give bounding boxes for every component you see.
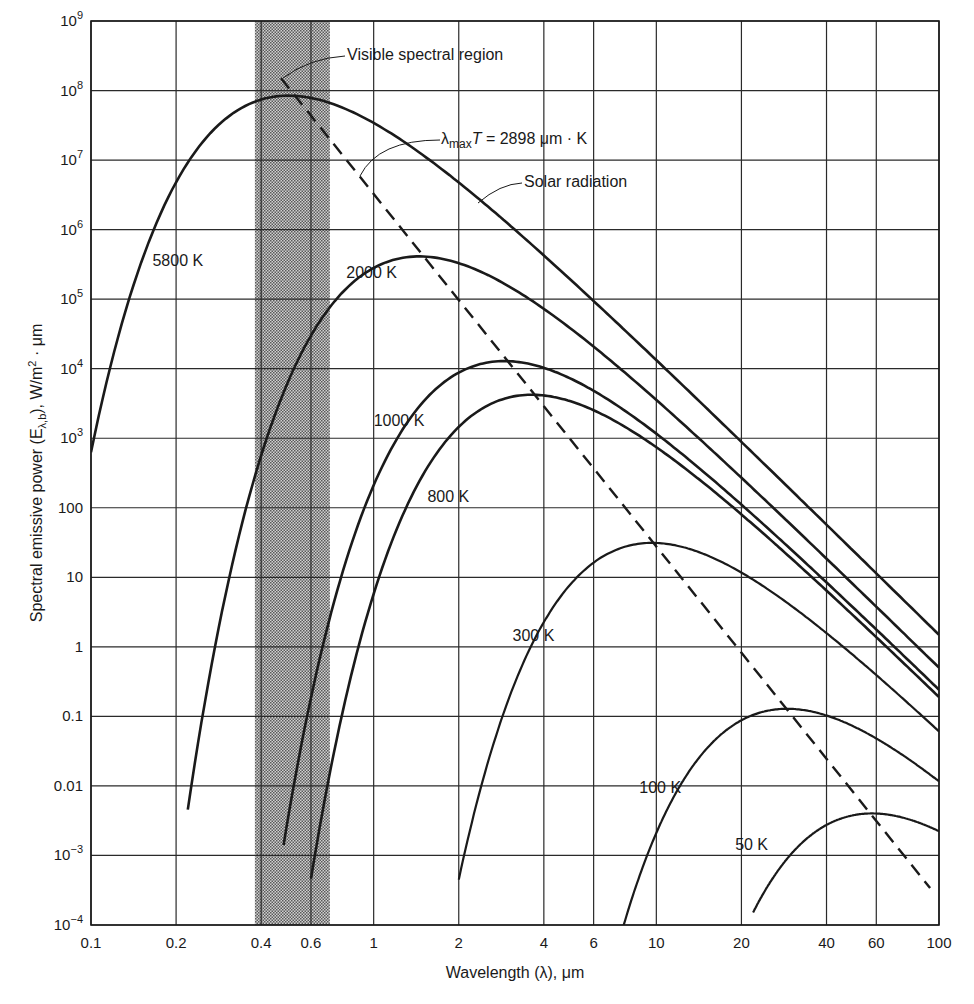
y-tick-label: 106: [60, 218, 83, 238]
curve-50k: [753, 813, 939, 912]
y-tick-label: 10: [66, 568, 83, 585]
y-tick-label: 0.01: [54, 777, 83, 794]
x-tick-label: 2: [455, 934, 463, 951]
x-tick-label: 4: [540, 934, 548, 951]
x-axis-title: Wavelength (λ), μm: [446, 964, 584, 981]
x-tick-label: 1: [369, 934, 377, 951]
x-axis-ticks: 0.10.20.40.6124610204060100: [81, 934, 952, 951]
y-tick-label: 108: [60, 79, 83, 99]
grid-lines: [91, 21, 939, 925]
y-tick-label: 100: [58, 499, 83, 516]
y-tick-label: 103: [60, 426, 83, 446]
curve-labels: 5800 K2000 K1000 K800 K300 K100 K50 K: [152, 252, 768, 853]
solar-radiation-label: Solar radiation: [524, 173, 627, 190]
x-tick-label: 20: [733, 934, 750, 951]
wien-displacement-line: [281, 78, 930, 888]
curve-100k: [621, 709, 939, 935]
curve-label: 300 K: [513, 627, 555, 644]
x-tick-label: 0.1: [81, 934, 102, 951]
y-tick-label: 0.1: [62, 707, 83, 724]
visible-region-label: Visible spectral region: [347, 46, 503, 63]
y-tick-label: 1: [75, 638, 83, 655]
x-tick-label: 60: [868, 934, 885, 951]
y-axis-ticks: 1091081071061051041031001010.10.0110−310…: [54, 9, 83, 933]
x-tick-label: 10: [648, 934, 665, 951]
x-tick-label: 100: [926, 934, 951, 951]
planck-curves: [91, 96, 939, 935]
y-tick-label: 107: [60, 148, 83, 168]
curve-label: 100 K: [639, 779, 681, 796]
curve-800k: [311, 395, 939, 879]
y-tick-label: 105: [60, 287, 83, 307]
curve-label: 800 K: [427, 488, 469, 505]
curve-label: 50 K: [735, 836, 768, 853]
curve-5800k: [91, 96, 939, 635]
annotation-solar-radiation: Solar radiation: [478, 173, 627, 203]
wien-law-label: λmaxT = 2898 μm · K: [441, 130, 587, 151]
x-tick-label: 0.6: [301, 934, 322, 951]
plot-frame: [91, 21, 939, 925]
curve-label: 5800 K: [152, 252, 203, 269]
y-axis-title: Spectral emissive power (Eλ,b), W/m2 · μ…: [26, 324, 48, 623]
y-tick-label: 10−4: [54, 913, 83, 933]
curve-300k: [459, 543, 939, 880]
y-tick-label: 104: [60, 357, 83, 377]
x-tick-label: 40: [818, 934, 835, 951]
annotation-wien-law: λmaxT = 2898 μm · K: [360, 130, 587, 176]
y-tick-label: 109: [60, 9, 83, 29]
y-tick-label: 10−3: [54, 843, 83, 863]
x-tick-label: 0.4: [251, 934, 272, 951]
curve-label: 1000 K: [374, 412, 425, 429]
blackbody-chart: 0.10.20.40.6124610204060100 109108107106…: [0, 0, 974, 1004]
curve-label: 2000 K: [346, 264, 397, 281]
x-tick-label: 0.2: [166, 934, 187, 951]
x-tick-label: 6: [589, 934, 597, 951]
